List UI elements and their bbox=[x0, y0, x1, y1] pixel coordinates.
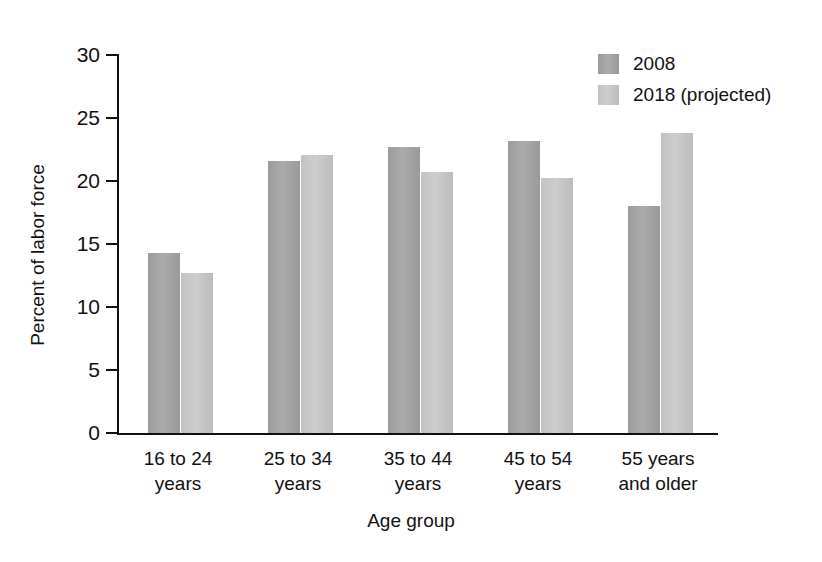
bar-group bbox=[628, 55, 693, 433]
y-axis-tick bbox=[106, 117, 118, 119]
bar-group bbox=[508, 55, 573, 433]
x-axis-line bbox=[117, 433, 718, 435]
category-label-line: and older bbox=[583, 471, 733, 496]
bar-2008 bbox=[628, 206, 660, 433]
legend-item: 2018 (projected) bbox=[598, 79, 771, 110]
x-axis-category-label: 55 yearsand older bbox=[583, 446, 733, 496]
legend-label: 2018 (projected) bbox=[633, 84, 771, 106]
bar-group bbox=[148, 55, 213, 433]
legend-label: 2008 bbox=[633, 53, 675, 75]
bar-2008 bbox=[268, 161, 300, 433]
y-axis-tick bbox=[106, 180, 118, 182]
legend-swatch-icon bbox=[598, 85, 619, 105]
y-axis-tick bbox=[106, 369, 118, 371]
bar-2008 bbox=[508, 141, 540, 433]
bar-2018-projected bbox=[661, 133, 693, 433]
y-axis-tick-label: 25 bbox=[56, 107, 100, 128]
y-axis-tick-label: 15 bbox=[56, 233, 100, 254]
y-axis-tick bbox=[106, 243, 118, 245]
y-axis-tick bbox=[106, 54, 118, 56]
y-axis-tick-label: 0 bbox=[56, 422, 100, 443]
bar-2008 bbox=[148, 253, 180, 433]
bar-group bbox=[268, 55, 333, 433]
y-axis-tick-label: 20 bbox=[56, 170, 100, 191]
bar-2018-projected bbox=[541, 178, 573, 433]
bar-2008 bbox=[388, 147, 420, 433]
legend-swatch-icon bbox=[598, 54, 619, 74]
bar-2018-projected bbox=[301, 155, 333, 433]
category-label-line: 55 years bbox=[583, 446, 733, 471]
y-axis-tick-labels: 051015202530 bbox=[48, 0, 100, 562]
plot-area bbox=[118, 55, 718, 433]
y-axis-title: Percent of labor force bbox=[27, 125, 49, 385]
chart-figure: Percent of labor force 051015202530 16 t… bbox=[0, 0, 822, 562]
bar-group bbox=[388, 55, 453, 433]
legend-item: 2008 bbox=[598, 48, 771, 79]
y-axis-tick bbox=[106, 306, 118, 308]
bar-2018-projected bbox=[421, 172, 453, 433]
y-axis-tick-label: 5 bbox=[56, 359, 100, 380]
x-axis-title: Age group bbox=[0, 510, 822, 532]
y-axis-tick-label: 30 bbox=[56, 44, 100, 65]
y-axis-tick bbox=[106, 432, 118, 434]
legend: 20082018 (projected) bbox=[598, 48, 771, 110]
bar-2018-projected bbox=[181, 273, 213, 433]
y-axis-tick-label: 10 bbox=[56, 296, 100, 317]
